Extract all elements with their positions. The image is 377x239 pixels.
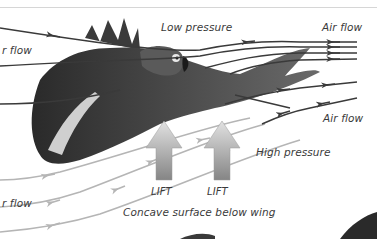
- next-illustration-edge: [340, 212, 377, 239]
- label-air-flow-bottom-left: r flow: [2, 197, 32, 209]
- label-concave-surface: Concave surface below wing: [123, 206, 276, 218]
- lift-arrow-1: [146, 121, 182, 180]
- next-illustration-fragment: [180, 234, 215, 239]
- label-air-flow-top-right: Air flow: [322, 21, 362, 33]
- lift-arrow-2: [204, 121, 240, 180]
- label-air-flow-top-left: r flow: [2, 44, 32, 56]
- lift-diagram: [0, 0, 377, 239]
- label-air-flow-mid-right: Air flow: [323, 112, 363, 124]
- tail-feathers: [85, 18, 140, 50]
- label-lift-1: LIFT: [151, 186, 172, 197]
- label-high-pressure: High pressure: [256, 146, 331, 158]
- label-lift-2: LIFT: [207, 186, 228, 197]
- label-low-pressure: Low pressure: [161, 21, 232, 33]
